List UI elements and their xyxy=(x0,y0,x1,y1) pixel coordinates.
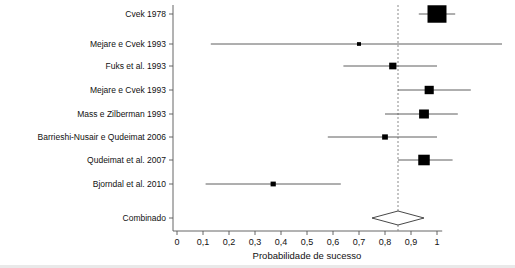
combined-label: Combinado xyxy=(123,214,166,223)
study-label: Mass e Zilberman 1993 xyxy=(77,110,166,119)
x-tick-label: 0,7 xyxy=(353,237,366,247)
x-tick-label: 0,9 xyxy=(405,237,418,247)
study-estimate-marker[interactable] xyxy=(382,134,388,139)
study-label: Fuks et al. 1993 xyxy=(106,62,166,71)
x-axis-title: Probabilidade de sucesso xyxy=(253,250,362,261)
study-label: Qudeimat et al. 2007 xyxy=(87,156,166,165)
study-label: Mejare e Cvek 1993 xyxy=(90,86,166,95)
combined-estimate-diamond[interactable] xyxy=(372,211,424,225)
study-estimate-marker[interactable] xyxy=(389,63,396,70)
x-tick-label: 1 xyxy=(434,237,439,247)
study-estimate-marker[interactable] xyxy=(357,42,361,46)
x-tick-label: 0,3 xyxy=(249,237,262,247)
study-label: Cvek 1978 xyxy=(125,10,166,19)
x-tick-label: 0,8 xyxy=(379,237,392,247)
study-estimate-marker[interactable] xyxy=(428,5,447,22)
study-estimate-marker[interactable] xyxy=(419,109,429,118)
x-tick-label: 0,1 xyxy=(197,237,210,247)
x-tick-label: 0,5 xyxy=(301,237,314,247)
study-estimate-marker[interactable] xyxy=(425,86,434,94)
study-estimate-marker[interactable] xyxy=(271,182,276,187)
study-label: Barrieshi-Nusair e Qudeimat 2006 xyxy=(37,133,166,142)
x-tick-label: 0,4 xyxy=(275,237,288,247)
study-label: Mejare e Cvek 1993 xyxy=(90,40,166,49)
study-label: Bjorndal et al. 2010 xyxy=(93,180,166,189)
study-estimate-marker[interactable] xyxy=(418,155,430,166)
x-tick-label: 0,2 xyxy=(223,237,236,247)
x-tick-label: 0 xyxy=(174,237,179,247)
x-tick-label: 0,6 xyxy=(327,237,340,247)
